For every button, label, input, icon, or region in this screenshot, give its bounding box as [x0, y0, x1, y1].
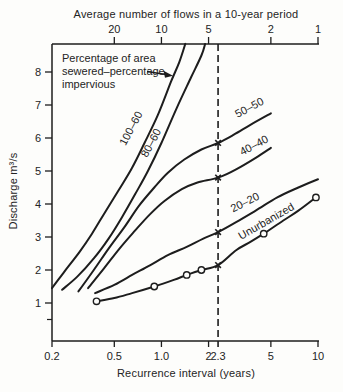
- y-tick-label-3: 3: [35, 231, 41, 243]
- discharge-chart: Average number of flows in a 10-year per…: [0, 0, 343, 392]
- y-tick-label-5: 5: [35, 165, 41, 177]
- y-axis-label: Discharge m³/s: [7, 152, 19, 229]
- bottom-tick-label-1.0: 1.0: [154, 350, 169, 362]
- bottom-tick-label-10: 10: [312, 350, 324, 362]
- circle-marker-Unurbanized: [198, 267, 204, 273]
- curve-20–20: [95, 179, 318, 293]
- curve-label-80–60: 80–60: [138, 126, 163, 159]
- top-tick-label-20: 20: [108, 23, 120, 35]
- curve-label-40–40: 40–40: [237, 133, 270, 158]
- x-axis-label: Recurrence interval (years): [117, 367, 255, 379]
- bottom-tick-label-5: 5: [268, 350, 274, 362]
- circle-marker-Unurbanized: [183, 272, 189, 278]
- y-tick-label-2: 2: [35, 264, 41, 276]
- circle-marker-Unurbanized: [93, 298, 99, 304]
- annotation-line-1: Percentage of area: [62, 52, 156, 64]
- annotation-arrow-head: [164, 71, 174, 78]
- chart-figure: Average number of flows in a 10-year per…: [0, 0, 343, 392]
- annotation-line-2: sewered–percentage: [62, 65, 165, 77]
- curve-label-100–60: 100–60: [117, 109, 145, 147]
- curve-label-50–50: 50–50: [233, 95, 266, 120]
- top-tick-label-2: 2: [268, 23, 274, 35]
- circle-marker-Unurbanized: [261, 231, 267, 237]
- y-tick-label-8: 8: [35, 66, 41, 78]
- bottom-tick-label-2.3: 2.3: [210, 350, 225, 362]
- top-axis-title: Average number of flows in a 10-year per…: [74, 8, 299, 20]
- annotation-line-3: impervious: [62, 78, 116, 90]
- circle-marker-Unurbanized: [151, 283, 157, 289]
- y-tick-label-4: 4: [35, 198, 41, 210]
- y-tick-label-1: 1: [35, 297, 41, 309]
- y-tick-label-7: 7: [35, 99, 41, 111]
- annotation-percentage-sewered: Percentage of area sewered–percentage im…: [62, 52, 173, 90]
- top-tick-label-1: 1: [315, 23, 321, 35]
- top-tick-label-5: 5: [206, 23, 212, 35]
- y-tick-label-6: 6: [35, 132, 41, 144]
- top-tick-label-10: 10: [155, 23, 167, 35]
- bottom-tick-label-0.5: 0.5: [107, 350, 122, 362]
- bottom-tick-label-0.2: 0.2: [44, 350, 59, 362]
- circle-marker-Unurbanized: [313, 194, 319, 200]
